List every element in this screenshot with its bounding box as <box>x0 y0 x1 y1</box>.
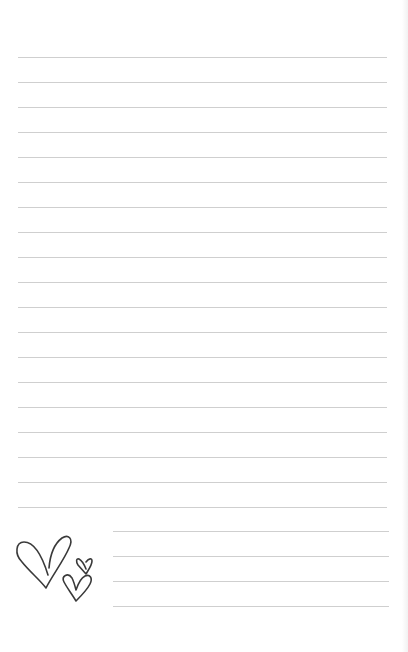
ruled-line <box>18 232 387 233</box>
ruled-line <box>18 382 387 383</box>
ruled-line <box>18 432 387 433</box>
ruled-line-short <box>113 556 389 557</box>
ruled-line <box>18 357 387 358</box>
ruled-line <box>18 182 387 183</box>
ruled-line <box>18 132 387 133</box>
ruled-line <box>18 82 387 83</box>
ruled-line <box>18 57 387 58</box>
ruled-line <box>18 482 387 483</box>
ruled-line <box>18 282 387 283</box>
hearts-doodle-icon <box>14 532 100 604</box>
ruled-line-short <box>113 606 389 607</box>
ruled-line <box>18 332 387 333</box>
ruled-line <box>18 157 387 158</box>
ruled-line <box>18 407 387 408</box>
ruled-line <box>18 507 387 508</box>
ruled-line <box>18 257 387 258</box>
ruled-line <box>18 207 387 208</box>
ruled-line-short <box>113 581 389 582</box>
ruled-line-short <box>113 531 389 532</box>
ruled-line <box>18 307 387 308</box>
ruled-line <box>18 457 387 458</box>
page-edge-shadow <box>402 0 408 652</box>
ruled-line <box>18 107 387 108</box>
